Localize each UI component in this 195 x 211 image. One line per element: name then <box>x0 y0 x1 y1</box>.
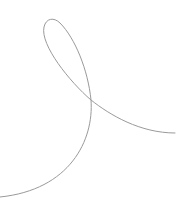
looped-curve-line <box>0 19 175 197</box>
drawing-canvas <box>0 0 195 211</box>
curve-graphic <box>0 0 195 211</box>
